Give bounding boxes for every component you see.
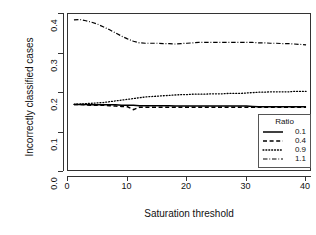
y-tick-label: 0.2	[50, 92, 59, 118]
chart-root: Incorrectly classified cases 0.00.10.20.…	[0, 0, 316, 235]
legend-entries: 0.10.40.91.1	[259, 127, 310, 163]
series-line-0.4	[74, 104, 306, 109]
legend: Ratio 0.10.40.91.1	[258, 114, 311, 168]
legend-label-0.1: 0.1	[284, 128, 307, 136]
legend-label-0.9: 0.9	[284, 146, 307, 154]
y-axis-line	[63, 13, 64, 171]
legend-title: Ratio	[259, 117, 310, 126]
y-tick-mark	[58, 92, 63, 93]
y-tick-mark	[58, 53, 63, 54]
series-line-0.9	[74, 91, 306, 104]
legend-label-1.1: 1.1	[284, 155, 307, 163]
legend-key-0.9	[262, 146, 284, 154]
x-tick-label: 30	[234, 182, 258, 191]
legend-key-1.1	[262, 155, 284, 163]
x-tick-label: 40	[293, 182, 316, 191]
legend-key-0.4	[262, 137, 284, 145]
y-tick-label: 0.4	[50, 13, 59, 39]
y-axis-title: Incorrectly classified cases	[25, 12, 35, 182]
x-tick-label: 10	[115, 182, 139, 191]
y-tick-label: 0.3	[50, 52, 59, 78]
y-tick-mark	[58, 132, 63, 133]
legend-key-0.1	[262, 128, 284, 136]
y-tick-mark	[58, 13, 63, 14]
series-line-1.1	[74, 20, 306, 45]
y-tick-mark	[58, 171, 63, 172]
x-tick-label: 20	[174, 182, 198, 191]
legend-item-0.1: 0.1	[259, 127, 310, 136]
x-axis-line	[67, 176, 311, 177]
x-axis-title: Saturation threshold	[67, 209, 311, 219]
x-tick-label: 0	[55, 182, 79, 191]
legend-item-0.9: 0.9	[259, 145, 310, 154]
y-tick-label: 0.1	[50, 131, 59, 157]
legend-item-1.1: 1.1	[259, 154, 310, 163]
legend-item-0.4: 0.4	[259, 136, 310, 145]
legend-label-0.4: 0.4	[284, 137, 307, 145]
